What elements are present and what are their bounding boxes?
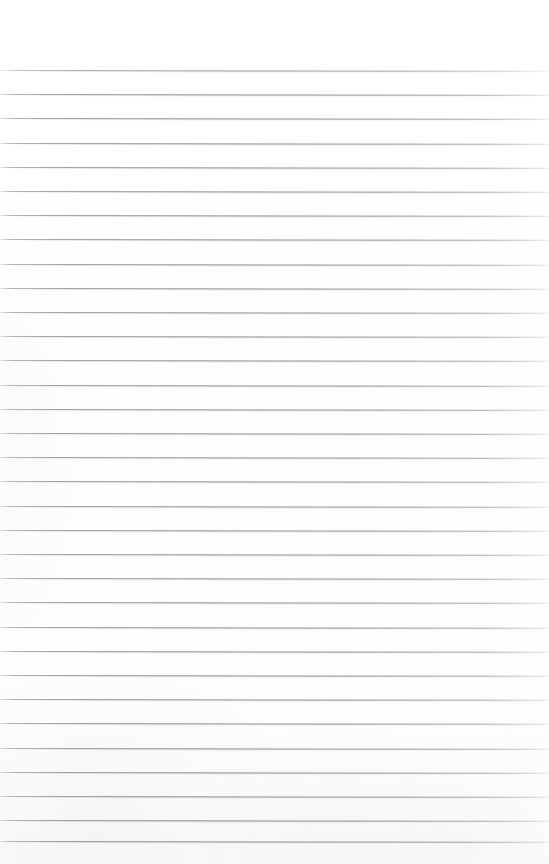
rule-line <box>0 578 549 580</box>
rule-line <box>0 699 549 701</box>
rule-line <box>0 143 549 145</box>
rule-line <box>0 336 549 338</box>
rule-line <box>0 841 549 843</box>
rule-line <box>0 94 549 96</box>
rule-line <box>0 530 549 532</box>
rule-line <box>0 627 549 629</box>
rule-line <box>0 651 549 653</box>
rule-line <box>0 506 549 508</box>
rule-line <box>0 602 549 604</box>
rule-line <box>0 796 549 798</box>
rule-line <box>0 385 549 387</box>
rule-line <box>0 433 549 435</box>
rule-line <box>0 409 549 411</box>
rule-line <box>0 723 549 725</box>
rule-line <box>0 264 549 266</box>
scanned-page <box>0 0 549 864</box>
rule-line <box>0 215 549 217</box>
rule-line <box>0 288 549 290</box>
rule-line <box>0 820 549 822</box>
ruled-writing-area <box>0 0 549 864</box>
rule-line <box>0 554 549 556</box>
rule-line <box>0 360 549 362</box>
rule-line <box>0 675 549 677</box>
rule-line <box>0 312 549 314</box>
rule-line <box>0 481 549 483</box>
rule-line <box>0 191 549 193</box>
rule-line <box>0 748 549 750</box>
rule-line <box>0 772 549 774</box>
rule-line <box>0 70 549 72</box>
rule-line <box>0 239 549 241</box>
rule-line <box>0 457 549 459</box>
rule-line <box>0 167 549 169</box>
rule-line <box>0 118 549 120</box>
